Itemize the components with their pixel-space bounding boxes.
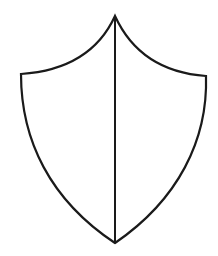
shield-outline [21, 16, 206, 243]
shield-drawing: shield outline divided vertically [0, 0, 218, 256]
shield-icon [0, 0, 218, 256]
